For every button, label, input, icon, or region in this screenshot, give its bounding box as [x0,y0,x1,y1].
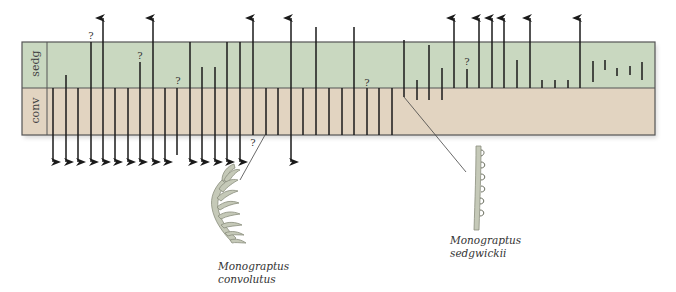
question-mark: ? [250,137,255,148]
caption-monograptus-convolutus: Monograptus convolutus [218,260,289,286]
question-mark: ? [364,77,369,88]
caption-monograptus-sedgwickii: Monograptus sedgwickii [450,234,521,260]
question-mark: ? [137,50,142,61]
monograptus-convolutus-illustration [211,164,246,243]
biozone-range-chart [0,0,676,292]
question-mark: ? [175,75,180,86]
question-mark: ? [88,30,93,41]
monograptus-sedgwickii-illustration [474,146,485,230]
caption-species: convolutus [218,273,289,286]
zone-band-sedg [22,42,655,88]
caption-genus: Monograptus [450,234,521,247]
caption-species: sedgwickii [450,247,521,260]
zone-band-conv [22,88,655,135]
zone-label-sedg: sedg [29,41,42,87]
question-mark: ? [464,56,469,67]
zone-bands [22,42,655,135]
zone-label-conv: conv [29,88,42,134]
caption-genus: Monograptus [218,260,289,273]
